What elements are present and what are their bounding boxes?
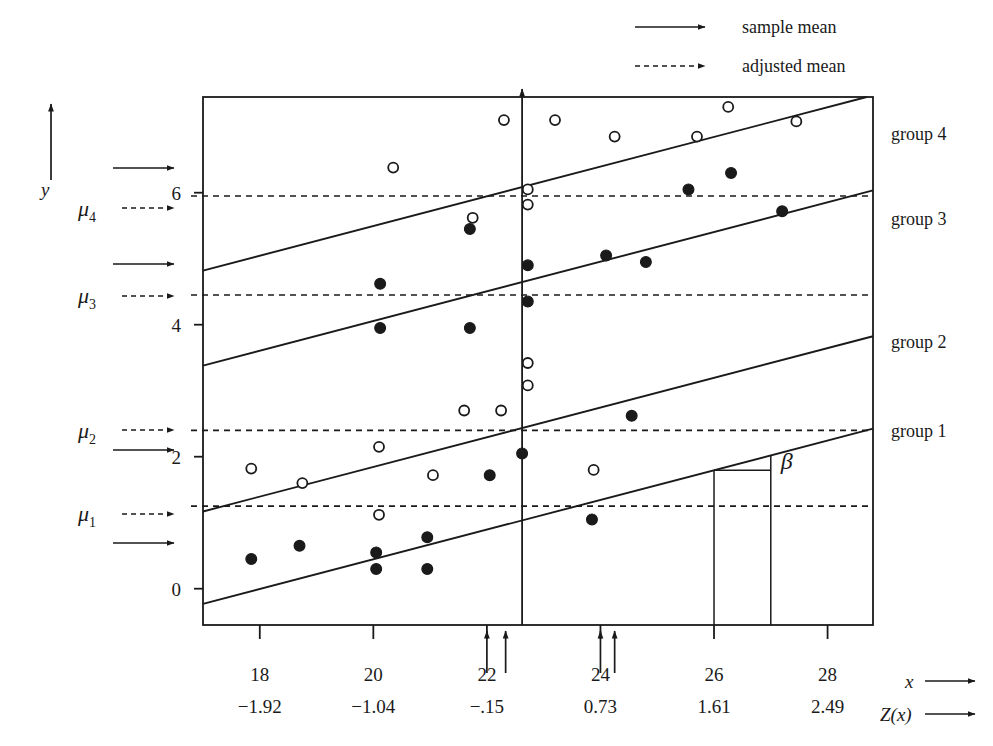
legend-item-adjusted-mean: adjusted mean [635,56,845,76]
data-point-group-3-0 [375,323,386,334]
y-tick-label-0: 0 [172,579,182,600]
beta-label: β [780,448,793,474]
mu-1-label: μ1 [77,501,96,530]
z-tick-label-28: 2.49 [811,696,844,717]
mu-2-group: μ2 [77,418,174,450]
group-label-1: group 1 [891,421,947,441]
data-point-group-2-5 [459,406,469,416]
data-point-group-2-2 [374,510,384,520]
data-point-group-4-6 [610,132,620,142]
data-point-group-4-3 [523,184,533,194]
mu-labels: μ4 μ3 μ2 [77,168,174,543]
regression-line-4 [203,97,867,271]
data-point-group-1-5 [422,564,433,575]
z-tick-label-20: −1.04 [351,696,395,717]
data-point-group-2-3 [374,442,384,452]
legend-label-adjusted-mean: adjusted mean [742,56,845,76]
data-point-group-1-8 [587,514,598,525]
x-axis-label: x [904,671,914,692]
group-label-3: group 3 [891,209,947,229]
data-point-group-3-1 [375,278,386,289]
z-tick-label-24: 0.73 [584,696,617,717]
ancova-figure: sample mean adjusted mean y μ4 [0,0,993,746]
x-tick-label-26: 26 [705,664,724,685]
data-point-group-1-6 [484,470,495,481]
mu-4-label: μ4 [77,196,96,225]
y-tick-label-4: 4 [172,315,182,336]
data-point-group-4-0 [388,163,398,173]
z-tick-label-18: −1.92 [238,696,282,717]
regression-line-3 [203,190,873,365]
legend: sample mean adjusted mean [635,17,845,76]
legend-label-sample-mean: sample mean [742,17,836,37]
data-point-group-3-7 [640,257,651,268]
data-point-group-1-3 [371,564,382,575]
data-point-group-2-1 [297,478,307,488]
mu-3-label: μ3 [77,283,96,312]
z-axis-label: Z(x) [880,704,912,726]
z-tick-label-22: −.15 [470,696,504,717]
group-labels: group 4group 3group 2group 1 [891,124,947,441]
data-point-group-4-4 [523,200,533,210]
y-tick-label-6: 6 [172,183,182,204]
legend-item-sample-mean: sample mean [635,17,836,37]
data-point-group-1-0 [246,554,257,565]
group-label-4: group 4 [891,124,947,144]
data-point-group-1-7 [517,448,528,459]
data-point-group-1-2 [371,547,382,558]
data-point-group-2-4 [428,470,438,480]
data-point-group-4-5 [550,115,560,125]
y-axis-label: y [39,179,50,200]
x-tick-label-18: 18 [250,664,269,685]
figure-canvas: sample mean adjusted mean y μ4 [0,0,993,746]
data-point-group-2-8 [523,358,533,368]
data-point-group-3-9 [726,168,737,179]
data-point-group-4-1 [468,213,478,223]
data-point-group-3-8 [683,184,694,195]
x-tick-label-28: 28 [818,664,837,685]
data-point-group-1-1 [294,540,305,551]
group-label-2: group 2 [891,332,947,352]
mu-4-group: μ4 [77,168,174,225]
data-point-group-3-4 [522,296,533,307]
data-point-group-2-0 [246,464,256,474]
data-point-group-3-10 [777,206,788,217]
z-tick-label-26: 1.61 [697,696,730,717]
data-point-group-3-2 [464,323,475,334]
data-point-group-4-2 [499,115,509,125]
data-point-group-1-4 [422,532,433,543]
x-tick-label-20: 20 [364,664,383,685]
mu-3-group: μ3 [77,264,174,312]
mu-1-group: μ1 [77,501,174,543]
data-point-group-2-6 [496,406,506,416]
plot-area: β024618−1.9220−1.0422−.15240.73261.61282… [172,89,874,717]
data-point-group-1-9 [626,410,637,421]
data-point-group-4-7 [692,132,702,142]
y-axis-name-group: y [39,104,51,200]
y-tick-label-2: 2 [172,447,182,468]
mu-2-label: μ2 [77,418,96,447]
data-point-group-2-9 [589,465,599,475]
regression-line-1 [203,429,873,604]
data-point-group-4-9 [791,116,801,126]
axis-direction-labels: x Z(x) [880,671,975,726]
data-point-group-3-5 [522,260,533,271]
data-point-group-3-6 [601,250,612,261]
data-point-group-2-7 [523,380,533,390]
data-point-group-4-8 [723,102,733,112]
data-point-group-3-3 [464,224,475,235]
